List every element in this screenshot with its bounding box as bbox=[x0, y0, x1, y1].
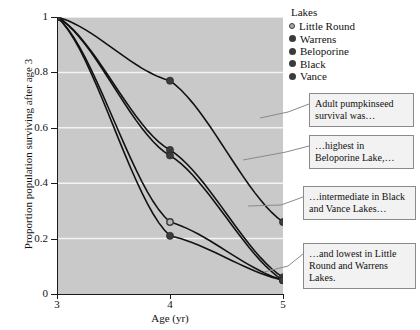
data-point bbox=[167, 219, 173, 225]
y-tick-mark bbox=[51, 72, 57, 73]
y-axis-title: Proportion population surviving after ag… bbox=[22, 29, 34, 279]
legend-marker-icon bbox=[289, 35, 296, 42]
legend-item-black[interactable]: Black bbox=[289, 58, 417, 71]
y-tick-mark bbox=[51, 239, 57, 240]
plot-area bbox=[57, 17, 283, 294]
legend-title: Lakes bbox=[291, 6, 417, 18]
legend-item-warrens[interactable]: Warrens bbox=[289, 33, 417, 46]
y-tick-mark bbox=[51, 128, 57, 129]
legend-marker-icon bbox=[289, 60, 296, 67]
x-tick-label: 3 bbox=[42, 298, 72, 310]
legend-item-label: Vance bbox=[300, 70, 327, 82]
data-point bbox=[166, 152, 173, 159]
chart-figure: 00.20.40.60.81 345 Proportion population… bbox=[0, 0, 420, 330]
legend-item-beloporine[interactable]: Beloporine bbox=[289, 45, 417, 58]
annotation-callout-3: …intermediate in Black and Vance Lakes… bbox=[303, 186, 416, 220]
data-point bbox=[166, 232, 173, 239]
y-axis-line bbox=[57, 17, 58, 295]
x-tick-label: 5 bbox=[268, 298, 298, 310]
legend: Lakes Little RoundWarrensBeloporineBlack… bbox=[289, 6, 417, 83]
y-tick-label: 1 bbox=[6, 10, 48, 22]
legend-item-label: Little Round bbox=[299, 20, 355, 32]
x-tick-label: 4 bbox=[155, 298, 185, 310]
legend-marker-icon bbox=[289, 48, 296, 55]
series-line-beloporine bbox=[57, 17, 283, 222]
legend-item-label: Black bbox=[300, 58, 326, 70]
legend-marker-icon bbox=[289, 23, 295, 29]
legend-item-little-round[interactable]: Little Round bbox=[289, 20, 417, 33]
legend-marker-icon bbox=[289, 73, 296, 80]
annotation-callout-2: …highest in Beloporine Lake,… bbox=[309, 135, 414, 169]
y-tick-mark bbox=[51, 17, 57, 18]
legend-item-label: Warrens bbox=[300, 33, 336, 45]
plot-canvas bbox=[57, 17, 283, 294]
annotation-callout-4: …and lowest in Little Round and Warrens … bbox=[303, 243, 416, 289]
annotation-callout-1: Adult pumpkinseed survival was… bbox=[309, 93, 414, 127]
legend-item-label: Beloporine bbox=[300, 45, 349, 57]
legend-item-vance[interactable]: Vance bbox=[289, 70, 417, 83]
data-point bbox=[166, 77, 173, 84]
y-tick-mark bbox=[51, 183, 57, 184]
x-axis-title: Age (yr) bbox=[57, 312, 283, 324]
